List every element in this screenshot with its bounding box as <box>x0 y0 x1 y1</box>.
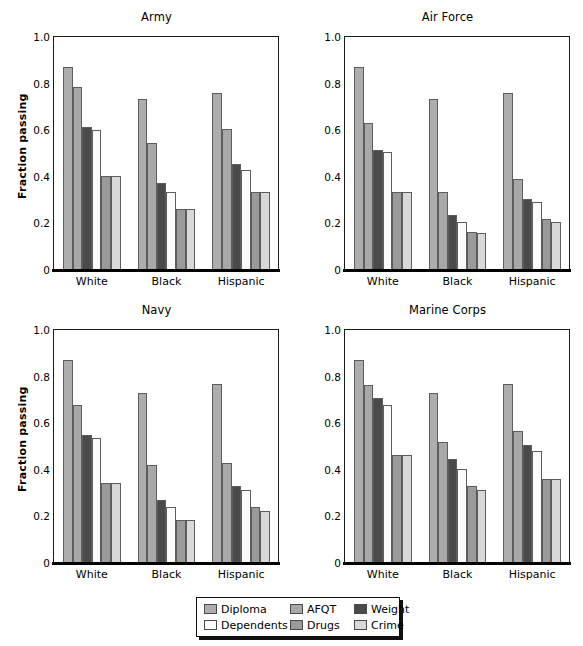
bar-group <box>203 330 278 563</box>
legend-grid: DiplomaAFQTWeightDependentsDrugsCrime <box>197 598 399 636</box>
bar <box>241 490 251 563</box>
bar <box>92 438 102 563</box>
bar <box>176 209 186 270</box>
x-tick-label: Black <box>443 568 473 581</box>
x-tick-label: Black <box>443 275 473 288</box>
bar <box>82 127 92 270</box>
bar <box>477 490 487 563</box>
y-tick-label: 0.6 <box>311 417 341 429</box>
bar-series-container <box>54 330 278 563</box>
legend-label: Drugs <box>307 620 340 631</box>
bar <box>354 67 364 270</box>
x-tick-label: Hispanic <box>509 568 556 581</box>
bar <box>364 123 374 270</box>
x-tick-label: White <box>367 275 399 288</box>
legend-swatch <box>354 604 367 614</box>
bar-group <box>54 330 129 563</box>
bar <box>383 152 393 270</box>
bar <box>241 170 251 270</box>
bar <box>551 479 561 563</box>
bar <box>402 455 412 563</box>
legend-item: Crime <box>354 620 408 631</box>
bar-group <box>345 37 420 270</box>
bar <box>467 486 477 563</box>
panel-title: Marine Corps <box>291 303 582 317</box>
x-tick-label: White <box>367 568 399 581</box>
bar <box>532 202 542 270</box>
y-tick-label: 0.4 <box>20 171 50 183</box>
bar <box>542 479 552 563</box>
x-axis-tick-labels: WhiteBlackHispanic <box>54 275 278 291</box>
bar <box>503 93 513 270</box>
y-axis-tick-labels: 1.00.80.60.40.20 <box>16 36 50 270</box>
bar <box>429 99 439 270</box>
legend-swatch <box>290 604 303 614</box>
x-axis-tick-labels: WhiteBlackHispanic <box>345 568 569 584</box>
y-tick-label: 1.0 <box>20 324 50 336</box>
y-tick-label: 0.4 <box>20 464 50 476</box>
legend-item: Drugs <box>290 620 354 631</box>
y-axis-tick-labels: 1.00.80.60.40.20 <box>16 329 50 563</box>
bar <box>73 405 83 563</box>
legend-label: AFQT <box>307 604 336 615</box>
panel-navy: Navy Fraction passing 1.00.80.60.40.20 W… <box>0 297 291 588</box>
bar <box>92 130 102 270</box>
legend-swatch <box>204 620 217 630</box>
bar-group <box>129 330 204 563</box>
panel-army: Army Fraction passing 1.00.80.60.40.20 W… <box>0 4 291 295</box>
bar-group <box>494 37 569 270</box>
bar <box>63 360 73 563</box>
y-tick-label: 0 <box>20 264 50 276</box>
bar <box>457 222 467 270</box>
x-axis-line <box>343 269 571 272</box>
bar <box>157 500 167 563</box>
y-tick-label: 0.4 <box>311 171 341 183</box>
y-tick-label: 0.4 <box>311 464 341 476</box>
bar <box>166 192 176 270</box>
legend: DiplomaAFQTWeightDependentsDrugsCrime <box>196 597 400 637</box>
bar <box>373 398 383 563</box>
x-axis-tick-labels: WhiteBlackHispanic <box>345 275 569 291</box>
y-tick-label: 0.2 <box>20 510 50 522</box>
y-tick-label: 0 <box>311 264 341 276</box>
bar <box>251 507 261 563</box>
bar <box>73 87 83 270</box>
bar <box>166 507 176 563</box>
bar <box>373 150 383 270</box>
bar <box>232 164 242 270</box>
y-tick-label: 0.2 <box>311 217 341 229</box>
bar-group <box>420 37 495 270</box>
bar <box>101 483 111 563</box>
x-axis-tick-labels: WhiteBlackHispanic <box>54 568 278 584</box>
x-tick-label: Hispanic <box>218 275 265 288</box>
x-tick-label: White <box>76 568 108 581</box>
bar <box>364 385 374 563</box>
bar <box>402 192 412 270</box>
y-tick-label: 0.2 <box>311 510 341 522</box>
x-tick-label: Hispanic <box>218 568 265 581</box>
x-axis-line <box>343 562 571 565</box>
bar <box>111 483 121 563</box>
bar-group <box>203 37 278 270</box>
panel-title: Army <box>0 10 291 24</box>
bar-group <box>54 37 129 270</box>
bar-group <box>494 330 569 563</box>
legend-item: Weight <box>354 604 408 615</box>
legend-label: Weight <box>371 604 409 615</box>
bar <box>532 451 542 563</box>
legend-item: AFQT <box>290 604 354 615</box>
legend-label: Crime <box>371 620 404 631</box>
x-axis-line <box>52 562 280 565</box>
bar <box>448 459 458 563</box>
bar <box>383 405 393 563</box>
bar <box>260 511 270 563</box>
bar <box>551 222 561 270</box>
legend-swatch <box>354 620 367 630</box>
bar <box>212 93 222 270</box>
bar <box>392 455 402 563</box>
x-tick-label: Black <box>152 275 182 288</box>
bar <box>176 520 186 563</box>
y-tick-label: 0.8 <box>311 371 341 383</box>
bar <box>138 99 148 270</box>
bar <box>392 192 402 270</box>
